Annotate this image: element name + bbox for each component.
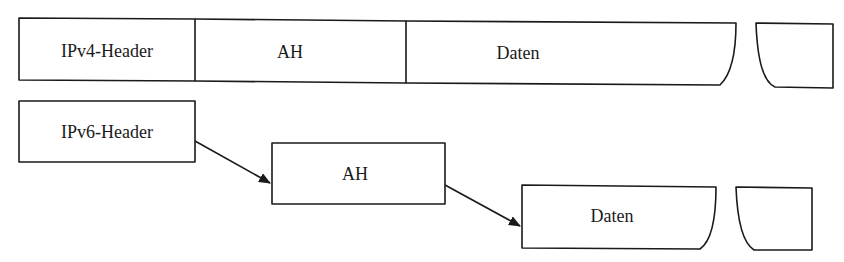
arrow-ah-to-data <box>445 185 520 226</box>
ipv4-packet: IPv4-Header AH Daten <box>19 18 833 88</box>
ipv4-header-label: IPv4-Header <box>61 41 153 61</box>
arrow-header-to-ah <box>195 141 270 183</box>
ipv4-data-continuation <box>756 23 833 88</box>
ipv6-data-label: Daten <box>591 206 634 226</box>
ipv4-ah-label: AH <box>277 42 303 62</box>
ipv4-data-segment <box>406 21 736 85</box>
ipv6-header-label: IPv6-Header <box>61 122 153 142</box>
ipv6-data-continuation <box>736 187 812 250</box>
ipv4-data-label: Daten <box>497 43 540 63</box>
ipv6-packet: IPv6-Header AH Daten <box>19 101 812 250</box>
ipv6-ah-label: AH <box>342 164 368 184</box>
ah-packet-diagram: IPv4-Header AH Daten IPv6-Header AH Date… <box>0 0 844 262</box>
